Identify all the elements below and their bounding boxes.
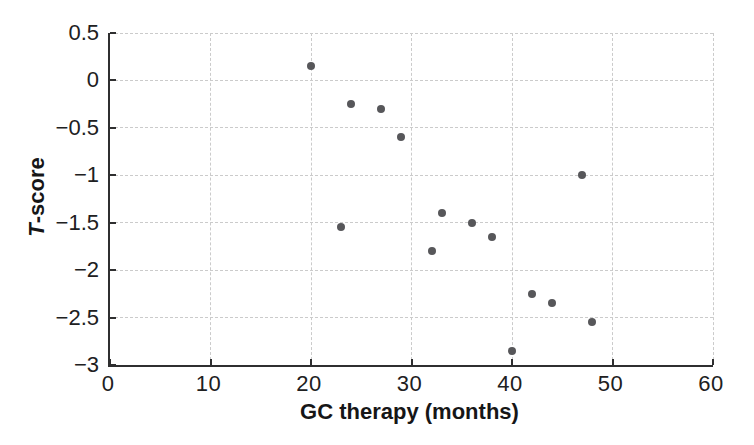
y-gridline	[110, 127, 713, 128]
data-point	[438, 209, 446, 217]
x-tick-mark	[612, 359, 614, 365]
y-tick-mark	[110, 127, 116, 129]
x-tick-label: 10	[179, 371, 239, 397]
plot-area	[108, 33, 713, 367]
data-point	[377, 105, 385, 113]
y-tick-label: −0.5	[0, 116, 99, 140]
y-tick-mark	[110, 364, 116, 366]
y-tick-mark	[110, 317, 116, 319]
y-tick-label: 0	[0, 68, 99, 92]
data-point	[307, 62, 315, 70]
x-tick-mark	[310, 359, 312, 365]
y-gridline	[110, 175, 713, 176]
x-tick-mark	[210, 359, 212, 365]
data-point	[428, 247, 436, 255]
data-point	[337, 223, 345, 231]
y-tick-mark	[110, 269, 116, 271]
data-point	[578, 171, 586, 179]
y-tick-label: −3	[0, 353, 99, 377]
y-tick-label: −1	[0, 163, 99, 187]
data-point	[468, 219, 476, 227]
x-tick-label: 60	[681, 371, 741, 397]
y-tick-label: −2.5	[0, 306, 99, 330]
x-tick-label: 20	[279, 371, 339, 397]
y-gridline	[110, 317, 713, 318]
y-gridline	[110, 33, 713, 34]
x-tick-mark	[511, 359, 513, 365]
x-gridline	[612, 33, 613, 365]
scatter-plot-figure: T-score GC therapy (months) 010203040506…	[0, 0, 754, 445]
data-point	[397, 133, 405, 141]
data-point	[528, 290, 536, 298]
y-gridline	[110, 80, 713, 81]
x-gridline	[311, 33, 312, 365]
x-tick-mark	[712, 359, 714, 365]
y-tick-label: −2	[0, 258, 99, 282]
x-tick-label: 50	[581, 371, 641, 397]
y-tick-mark	[110, 222, 116, 224]
y-tick-mark	[110, 32, 116, 34]
data-point	[548, 299, 556, 307]
x-tick-label: 40	[480, 371, 540, 397]
y-tick-label: −1.5	[0, 211, 99, 235]
data-point	[347, 100, 355, 108]
x-gridline	[713, 33, 714, 365]
x-axis-label: GC therapy (months)	[108, 399, 711, 425]
x-tick-mark	[411, 359, 413, 365]
y-tick-mark	[110, 174, 116, 176]
y-tick-label: 0.5	[0, 21, 99, 45]
data-point	[488, 233, 496, 241]
data-point	[588, 318, 596, 326]
y-tick-mark	[110, 79, 116, 81]
y-gridline	[110, 222, 713, 223]
data-point	[508, 347, 516, 355]
x-gridline	[411, 33, 412, 365]
x-gridline	[210, 33, 211, 365]
x-tick-label: 30	[380, 371, 440, 397]
x-gridline	[512, 33, 513, 365]
y-gridline	[110, 270, 713, 271]
